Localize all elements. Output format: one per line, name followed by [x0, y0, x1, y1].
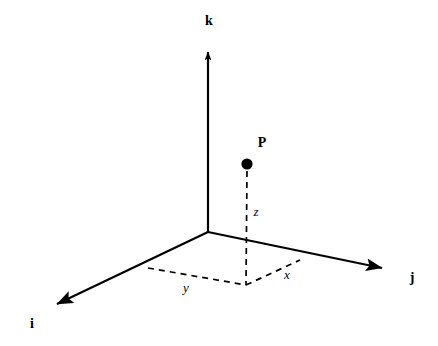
axis-line-j [208, 232, 382, 268]
component-label-y: y [183, 281, 189, 294]
component-line-x [246, 260, 300, 285]
component-line-z [246, 171, 247, 285]
component-label-z: z [253, 205, 258, 218]
coordinate-diagram-canvas: k i j P z y x [0, 0, 438, 346]
axis-label-j: j [410, 271, 415, 285]
point-label-p: P [258, 136, 267, 150]
diagram-vector-layer [0, 0, 438, 346]
axis-label-i: i [30, 317, 34, 331]
component-label-x: x [284, 268, 290, 281]
axis-label-k: k [205, 14, 213, 28]
point-p-marker [241, 158, 252, 169]
component-line-y [148, 268, 246, 285]
